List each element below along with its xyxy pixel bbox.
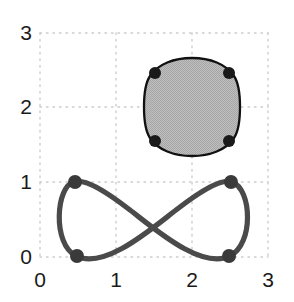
x-tick-label-1: 1 [104, 269, 128, 290]
series-filled-circle [144, 58, 240, 156]
lemniscate-marker [224, 175, 238, 189]
circle-marker [223, 135, 235, 147]
lemniscate-curve [59, 181, 247, 259]
y-tick-label-0: 0 [8, 246, 32, 267]
y-tick-label-1: 1 [8, 171, 32, 192]
circle-marker [223, 67, 235, 79]
y-tick-label-2: 2 [8, 96, 32, 117]
series-lemniscate [59, 175, 247, 263]
x-tick-label-2: 2 [180, 269, 204, 290]
plot-canvas [0, 0, 294, 302]
circle-marker [149, 135, 161, 147]
lemniscate-marker [68, 175, 82, 189]
x-tick-label-0: 0 [28, 269, 52, 290]
lemniscate-marker [70, 249, 84, 263]
lemniscate-marker [222, 249, 236, 263]
circle-marker [149, 67, 161, 79]
y-tick-label-3: 3 [8, 22, 32, 43]
chart-figure: 3 2 1 0 0 1 2 3 [0, 0, 294, 302]
x-tick-label-3: 3 [256, 269, 280, 290]
